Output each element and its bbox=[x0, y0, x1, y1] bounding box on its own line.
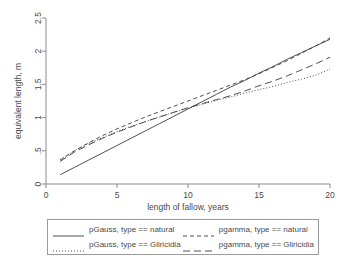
series-line-0 bbox=[60, 39, 330, 174]
y-tick-label: 2 bbox=[33, 49, 43, 54]
y-tick-label: 1 bbox=[33, 115, 43, 120]
x-tick-label: 5 bbox=[115, 190, 120, 200]
y-axis-title: equivalent length, m bbox=[13, 63, 23, 139]
legend-line-swatch bbox=[52, 226, 85, 234]
legend-label: pGauss, type == natural bbox=[89, 226, 174, 234]
y-tick-label: 1.5 bbox=[33, 78, 43, 90]
series-line-2 bbox=[60, 38, 330, 160]
x-tick-label: 20 bbox=[325, 190, 335, 200]
x-axis-title: length of fallow, years bbox=[147, 202, 229, 212]
series-line-3 bbox=[60, 57, 330, 161]
legend-label: pGauss, type == Gliricidia bbox=[89, 241, 181, 249]
x-tick-label: 15 bbox=[254, 190, 264, 200]
x-tick-label: 0 bbox=[44, 190, 49, 200]
legend-label: pgamma, type == natural bbox=[219, 226, 308, 234]
chart-legend: pGauss, type == naturalpgamma, type == n… bbox=[47, 219, 319, 255]
legend-line-swatch bbox=[182, 226, 215, 234]
y-tick-label: 0 bbox=[33, 181, 43, 186]
legend-entry: pGauss, type == Gliricidia bbox=[52, 241, 182, 249]
x-tick-label: 10 bbox=[183, 190, 193, 200]
legend-entry: pGauss, type == natural bbox=[52, 226, 182, 234]
chart-container: 051015200.511.522.5length of fallow, yea… bbox=[0, 0, 353, 267]
series-line-1 bbox=[60, 69, 330, 159]
legend-label: pgamma, type == Gliricidia bbox=[219, 241, 314, 249]
y-tick-label: .5 bbox=[33, 147, 43, 154]
legend-line-swatch bbox=[182, 241, 215, 249]
legend-entry: pgamma, type == Gliricidia bbox=[182, 241, 314, 249]
legend-line-swatch bbox=[52, 241, 85, 249]
legend-entry: pgamma, type == natural bbox=[182, 226, 314, 234]
y-tick-label: 2.5 bbox=[33, 12, 43, 24]
